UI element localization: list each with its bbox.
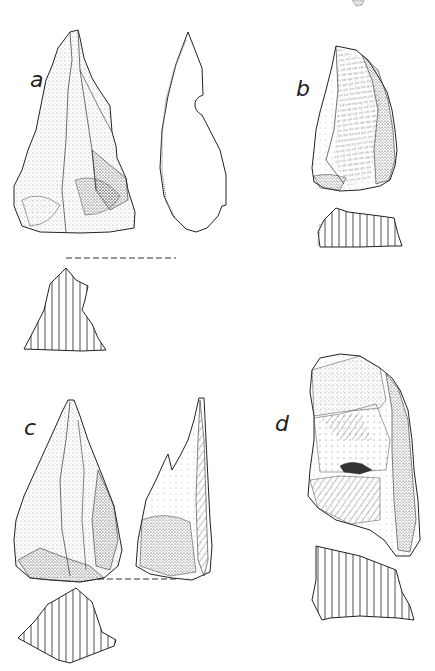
specimen-b-cross-section: [318, 208, 402, 247]
specimen-d-cross-section: [312, 546, 414, 620]
specimen-c-cross-section: [18, 588, 116, 663]
specimen-a-cross-section: [24, 268, 106, 351]
specimen-a: [14, 30, 226, 351]
specimen-b: [312, 46, 402, 247]
specimen-d: [308, 354, 420, 620]
specimen-a-profile: [160, 32, 226, 232]
cropped-fragment: [352, 0, 364, 6]
artifact-plate: a b c d: [0, 0, 435, 671]
specimen-c: [14, 398, 212, 663]
artifact-drawings: [0, 0, 435, 671]
